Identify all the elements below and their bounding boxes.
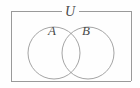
set-a-label: A [47, 23, 56, 38]
venn-diagram-canvas: U A B [0, 0, 140, 88]
universal-set-label: U [65, 4, 76, 19]
venn-diagram-figure: U A B [0, 0, 140, 88]
set-b-label: B [82, 23, 90, 38]
